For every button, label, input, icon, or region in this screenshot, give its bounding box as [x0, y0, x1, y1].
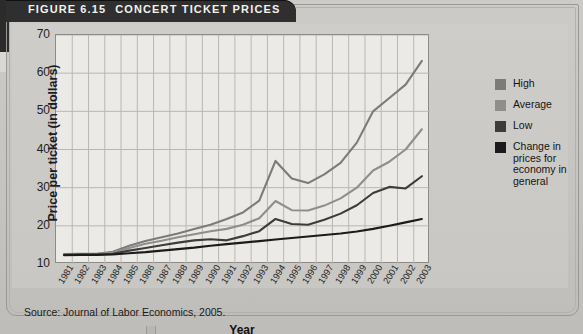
x-tick-1983: 1983 [89, 263, 108, 286]
x-tick-1992: 1992 [235, 263, 254, 286]
x-tick-1990: 1990 [203, 263, 222, 286]
y-tick-10: 10 [37, 256, 50, 270]
page-bottom-notch [146, 326, 156, 334]
x-tick-1999: 1999 [349, 263, 368, 286]
x-tick-1982: 1982 [73, 263, 92, 286]
grid-and-series [56, 35, 430, 264]
x-tick-2001: 2001 [381, 263, 400, 286]
legend-swatch-icon [495, 121, 506, 132]
x-tick-2003: 2003 [414, 263, 433, 286]
legend-label: Change in prices for economy in general [513, 141, 583, 187]
x-tick-1993: 1993 [251, 263, 270, 286]
y-tick-50: 50 [37, 103, 50, 117]
figure-header-title: FIGURE 6.15CONCERT TICKET PRICES [28, 3, 280, 15]
y-tick-70: 70 [37, 27, 50, 41]
x-tick-1984: 1984 [105, 263, 124, 286]
legend-label: High [513, 78, 535, 90]
x-tick-1991: 1991 [219, 263, 238, 286]
legend-label: Low [513, 120, 532, 132]
legend-swatch-icon [495, 142, 506, 153]
legend-item-0[interactable]: High [495, 78, 583, 90]
x-tick-1988: 1988 [170, 263, 189, 286]
legend-item-3[interactable]: Change in prices for economy in general [495, 141, 583, 187]
x-tick-1994: 1994 [268, 263, 287, 286]
y-axis-label: Price per ticket (in dollars) [46, 0, 60, 334]
y-tick-40: 40 [37, 142, 50, 156]
chart-legend: HighAverageLowChange in prices for econo… [495, 78, 583, 196]
y-tick-30: 30 [37, 180, 50, 194]
chart-panel: Price per ticket (in dollars) 1020304050… [12, 24, 568, 288]
x-tick-1995: 1995 [284, 263, 303, 286]
x-tick-1996: 1996 [300, 263, 319, 286]
y-tick-60: 60 [37, 65, 50, 79]
x-tick-1987: 1987 [154, 263, 173, 286]
legend-label: Average [513, 99, 552, 111]
legend-item-1[interactable]: Average [495, 99, 583, 111]
legend-swatch-icon [495, 100, 506, 111]
x-tick-1997: 1997 [316, 263, 335, 286]
x-tick-1998: 1998 [333, 263, 352, 286]
x-tick-2000: 2000 [365, 263, 384, 286]
legend-swatch-icon [495, 79, 506, 90]
figure-title: CONCERT TICKET PRICES [115, 3, 280, 15]
x-axis-label: Year [55, 323, 429, 334]
figure-root: FIGURE 6.15CONCERT TICKET PRICES Price p… [0, 0, 583, 334]
y-tick-20: 20 [37, 218, 50, 232]
x-tick-1989: 1989 [186, 263, 205, 286]
x-tick-1985: 1985 [121, 263, 140, 286]
figure-number: FIGURE 6.15 [28, 3, 106, 15]
figure-source: Source: Journal of Labor Economics, 2005… [24, 306, 225, 318]
plot-area [55, 34, 429, 263]
x-tick-1986: 1986 [138, 263, 157, 286]
legend-item-2[interactable]: Low [495, 120, 583, 132]
plot-outer: Price per ticket (in dollars) 1020304050… [55, 34, 429, 263]
x-tick-2002: 2002 [398, 263, 417, 286]
